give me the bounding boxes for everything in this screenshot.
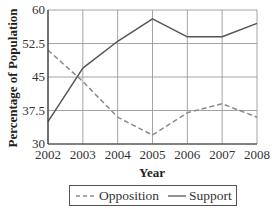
y-tick-label: 60 [32,2,45,17]
y-tick-label: 52.5 [22,36,45,51]
legend-opposition-label: Opposition [99,188,159,203]
x-tick-label: 2003 [70,147,96,162]
x-tick-label: 2005 [140,147,166,162]
x-axis-tick-labels: 2002200320042005200620072008 [35,147,270,162]
line-chart: 3037.54552.560 2002200320042005200620072… [0,0,272,209]
x-axis-title: Year [139,165,165,180]
x-tick-label: 2008 [244,147,270,162]
gridlines [48,10,257,144]
x-tick-label: 2006 [174,147,201,162]
x-tick-label: 2007 [209,147,236,162]
x-tick-label: 2002 [35,147,61,162]
y-axis-title: Percentage of Population [5,8,20,148]
y-tick-label: 45 [32,69,45,84]
y-axis-tick-labels: 3037.54552.560 [22,2,45,151]
x-tick-label: 2004 [105,147,132,162]
y-tick-label: 37.5 [22,103,45,118]
legend-support-label: Support [189,188,232,203]
legend: Opposition Support [70,186,237,206]
